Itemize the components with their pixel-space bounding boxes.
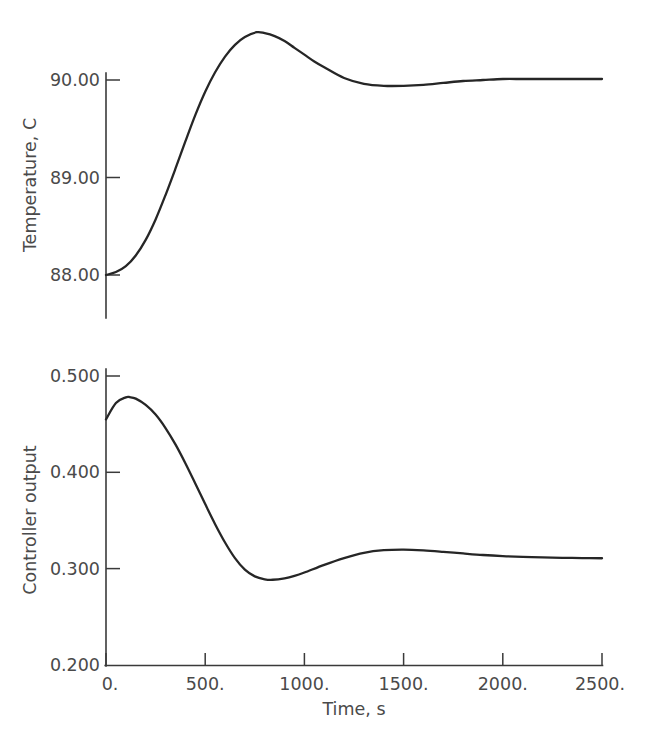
time-tick-label-2500: 2500. <box>575 674 625 694</box>
time-tick-label-2000: 2000. <box>478 674 528 694</box>
temperature-curve <box>106 32 602 275</box>
time-tick-label-1000: 1000. <box>279 674 329 694</box>
time-tick-label-1500: 1500. <box>379 674 429 694</box>
time-tick-label-500: 500. <box>186 674 225 694</box>
controller-tick-label-0200: 0.200 <box>50 655 100 675</box>
bottom-panel: 0.500 0.400 0.300 0.200 Controller outpu… <box>20 366 625 719</box>
temperature-axis-title: Temperature, C <box>20 118 40 253</box>
step-response-plot: 90.00 89.00 88.00 Temperature, C 0.500 0… <box>0 0 649 734</box>
time-x-ticks <box>106 653 602 665</box>
figure-container: 90.00 89.00 88.00 Temperature, C 0.500 0… <box>0 0 649 734</box>
controller-tick-label-0500: 0.500 <box>50 366 100 386</box>
temperature-y-ticks <box>106 80 120 275</box>
controller-output-curve <box>106 397 602 580</box>
controller-tick-label-0300: 0.300 <box>50 559 100 579</box>
controller-y-ticks <box>106 376 120 569</box>
controller-axis-title: Controller output <box>20 445 40 595</box>
time-axis-title: Time, s <box>321 699 385 719</box>
temperature-tick-label-90: 90.00 <box>50 70 100 90</box>
time-tick-label-0: 0. <box>102 674 119 694</box>
controller-tick-label-0400: 0.400 <box>50 462 100 482</box>
temperature-tick-label-88: 88.00 <box>50 265 100 285</box>
temperature-tick-label-89: 89.00 <box>50 168 100 188</box>
top-panel: 90.00 89.00 88.00 Temperature, C <box>20 32 602 318</box>
